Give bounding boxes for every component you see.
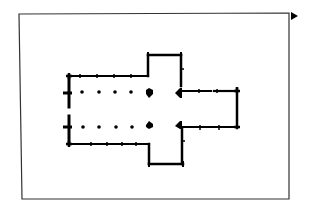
crossing-piers	[146, 88, 182, 129]
church-floor-plan-diagram	[0, 0, 313, 214]
plan-walls	[69, 55, 237, 164]
page-marker-icon	[291, 12, 298, 20]
nave-columns	[80, 90, 134, 129]
buttresses	[63, 52, 240, 167]
diagram-frame	[19, 13, 289, 199]
